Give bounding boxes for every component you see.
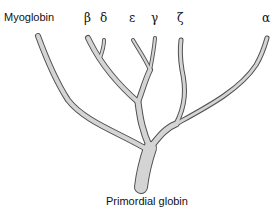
root-label: Primordial globin <box>106 196 188 207</box>
tree-fill <box>38 36 267 187</box>
leaf-label-myoglobin: Myoglobin <box>4 12 54 23</box>
leaf-label-beta: β <box>84 12 91 24</box>
leaf-label-epsilon: ε <box>129 12 135 24</box>
leaf-label-zeta: ζ <box>177 12 184 24</box>
leaf-label-delta: δ <box>100 12 107 24</box>
leaf-label-gamma: γ <box>151 12 158 24</box>
leaf-label-alpha: α <box>262 12 270 24</box>
phylogenetic-tree <box>0 0 279 210</box>
